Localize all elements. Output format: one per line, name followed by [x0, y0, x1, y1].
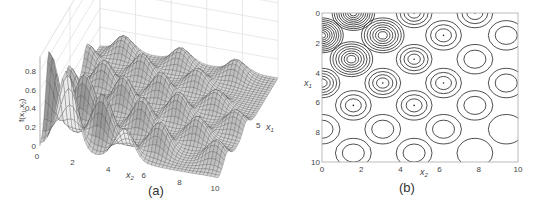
svg-text:6: 6	[142, 171, 147, 180]
panel-caption-a: (a)	[148, 183, 164, 198]
surface-plot-panel: 00.20.40.60.80246810510x2x1f(x1,x2) (a)	[0, 0, 280, 207]
svg-text:x1: x1	[265, 122, 274, 133]
contour-plot-panel: 02468100246810x2x1 (b)	[280, 0, 537, 207]
svg-text:x2: x2	[419, 167, 429, 178]
svg-text:10: 10	[514, 165, 523, 174]
svg-text:f(x1,x2): f(x1,x2)	[17, 98, 27, 122]
svg-text:0.2: 0.2	[25, 123, 37, 132]
svg-text:0: 0	[32, 142, 37, 151]
contour-lines	[301, 0, 524, 168]
panel-caption-b: (b)	[399, 180, 415, 195]
svg-text:0: 0	[320, 165, 325, 174]
svg-text:8: 8	[477, 165, 482, 174]
svg-text:0: 0	[35, 152, 40, 161]
svg-text:2: 2	[359, 165, 364, 174]
axis-ticks: 02468100246810x2x1	[303, 9, 523, 178]
svg-text:8: 8	[316, 128, 321, 137]
svg-text:6: 6	[437, 165, 442, 174]
svg-text:10: 10	[211, 184, 220, 193]
svg-text:0: 0	[316, 9, 321, 18]
svg-text:4: 4	[106, 165, 111, 174]
svg-text:5: 5	[256, 121, 261, 130]
svg-text:6: 6	[316, 98, 321, 107]
svg-text:0.6: 0.6	[25, 86, 37, 95]
svg-text:4: 4	[398, 165, 403, 174]
svg-text:4: 4	[316, 69, 321, 78]
svg-text:x2: x2	[125, 170, 135, 181]
svg-text:8: 8	[177, 178, 182, 187]
svg-text:0.8: 0.8	[25, 67, 37, 76]
svg-text:2: 2	[316, 39, 321, 48]
svg-text:2: 2	[70, 158, 75, 167]
contour-plot: 02468100246810x2x1	[280, 0, 537, 207]
svg-text:x1: x1	[303, 78, 312, 89]
surface-plot: 00.20.40.60.80246810510x2x1f(x1,x2)	[0, 0, 280, 207]
